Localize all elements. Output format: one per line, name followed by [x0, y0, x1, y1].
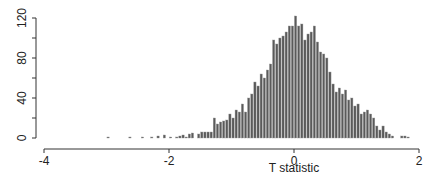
histogram-bar: [407, 137, 409, 138]
histogram-bar: [298, 26, 300, 138]
histogram-bar: [191, 133, 193, 138]
histogram-bar: [254, 82, 256, 138]
histogram-bar: [344, 90, 346, 138]
histogram-bar: [107, 137, 109, 138]
histogram-bar: [310, 32, 312, 138]
histogram-bar: [213, 118, 215, 138]
y-axis: 04080120: [15, 8, 36, 142]
histogram-bar: [251, 94, 253, 138]
histogram-bar: [341, 94, 343, 138]
histogram-bar: [366, 110, 368, 138]
histogram-bar: [285, 32, 287, 138]
histogram-bar: [244, 112, 246, 138]
histogram-bar: [282, 36, 284, 138]
histogram-bar: [326, 58, 328, 138]
histogram-bar: [404, 136, 406, 138]
histogram-bar: [204, 132, 206, 138]
histogram-bar: [157, 136, 159, 138]
histogram-bar: [207, 132, 209, 138]
histogram-bar: [369, 114, 371, 138]
histogram-bar: [235, 110, 237, 138]
histogram-bar: [391, 136, 393, 138]
histogram-bar: [323, 54, 325, 138]
histogram-bar: [188, 134, 190, 138]
histogram-bar: [360, 114, 362, 138]
histogram-bar: [273, 40, 275, 138]
histogram-bar: [198, 134, 200, 138]
histogram-bar: [332, 84, 334, 138]
histogram-bar: [294, 16, 296, 138]
histogram-bar: [388, 134, 390, 138]
histogram-bar: [151, 137, 153, 138]
histogram-bar: [354, 106, 356, 138]
histogram-bar: [329, 72, 331, 138]
histogram-bar: [219, 122, 221, 138]
histogram-bar: [319, 52, 321, 138]
histogram-bar: [238, 112, 240, 138]
x-tick-label: -2: [164, 154, 175, 168]
y-tick-label: 40: [15, 91, 29, 105]
histogram-bar: [263, 78, 265, 138]
histogram-bar: [129, 137, 131, 138]
histogram-bar: [210, 132, 212, 138]
x-tick-label: 2: [416, 154, 423, 168]
histogram-bar: [182, 135, 184, 138]
histogram-bar: [163, 135, 165, 138]
histogram-bar: [276, 44, 278, 138]
histogram-bar: [357, 104, 359, 138]
histogram-bar: [379, 130, 381, 138]
histogram-bar: [176, 137, 178, 138]
y-tick-label: 0: [15, 134, 29, 141]
histogram-bar: [307, 34, 309, 138]
histogram-bar: [248, 98, 250, 138]
histogram-bar: [335, 92, 337, 138]
histogram-bar: [304, 40, 306, 138]
histogram-bar: [363, 112, 365, 138]
histogram-bar: [316, 42, 318, 138]
y-tick-label: 120: [15, 8, 29, 28]
histogram-bar: [288, 26, 290, 138]
histogram-bar: [291, 26, 293, 138]
histogram-bar: [301, 24, 303, 138]
histogram-bar: [382, 126, 384, 138]
x-axis: -4-202: [39, 149, 423, 168]
histogram-bar: [216, 124, 218, 138]
histogram-bar: [401, 136, 403, 138]
histogram-bar: [201, 132, 203, 138]
histogram-bar: [257, 86, 259, 138]
histogram-bar: [269, 64, 271, 138]
histogram-bar: [373, 118, 375, 138]
histogram-bar: [226, 120, 228, 138]
histogram-bar: [279, 38, 281, 138]
histogram-bar: [223, 121, 225, 138]
histogram-bar: [185, 137, 187, 138]
histogram-chart: 04080120 -4-202 T statistic: [0, 0, 442, 180]
histogram-bars: [107, 16, 409, 138]
histogram-bar: [229, 114, 231, 138]
histogram-bar: [141, 137, 143, 138]
histogram-bar: [241, 104, 243, 138]
histogram-bar: [376, 126, 378, 138]
histogram-bar: [232, 118, 234, 138]
histogram-bar: [338, 88, 340, 138]
x-axis-title: T statistic: [269, 161, 319, 175]
histogram-bar: [266, 70, 268, 138]
histogram-bar: [313, 26, 315, 138]
histogram-bar: [351, 98, 353, 138]
histogram-bar: [348, 100, 350, 138]
histogram-bar: [260, 74, 262, 138]
histogram-bar: [179, 136, 181, 138]
y-tick-label: 80: [15, 51, 29, 65]
histogram-bar: [385, 132, 387, 138]
x-tick-label: -4: [39, 154, 50, 168]
histogram-bar: [169, 137, 171, 138]
